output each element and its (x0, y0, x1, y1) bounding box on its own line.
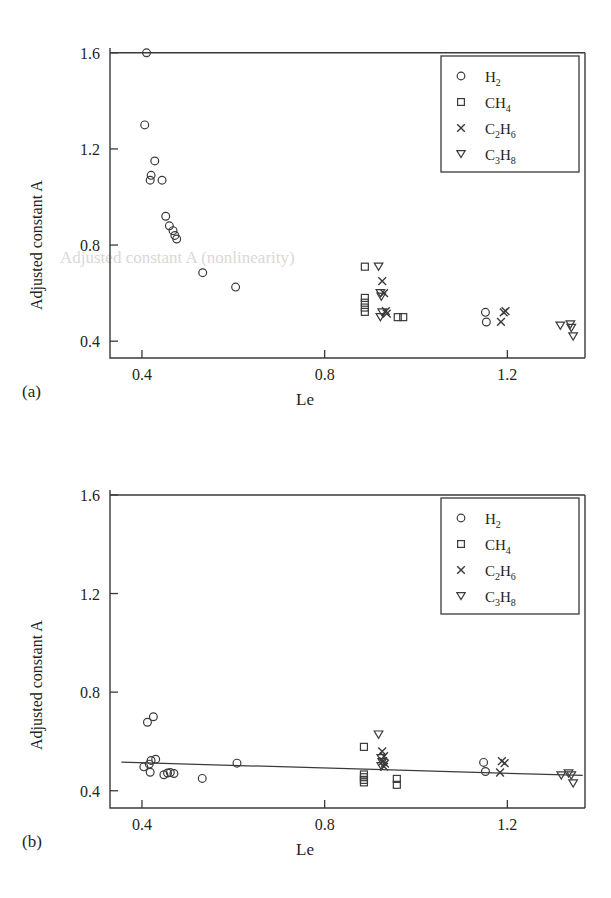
y-tick-label: 0.8 (80, 684, 100, 701)
square-marker (361, 304, 368, 311)
circle-marker (198, 775, 206, 783)
circle-marker (152, 755, 160, 763)
series-C2H6 (378, 277, 509, 326)
circle-marker (146, 768, 154, 776)
cross-marker (378, 277, 386, 285)
x-tick-label: 1.2 (497, 816, 517, 833)
square-marker (361, 263, 368, 270)
y-tick-label: 0.8 (80, 237, 100, 254)
x-tick-label: 0.4 (132, 816, 152, 833)
triangle-marker (569, 333, 578, 340)
cross-marker (501, 759, 509, 767)
square-marker (361, 299, 368, 306)
y-tick-label: 1.6 (80, 487, 100, 504)
cross-marker (497, 318, 505, 326)
chart-panel-b: Adjusted constant A Le (b) 0.40.81.21.60… (0, 430, 611, 898)
circle-marker (482, 318, 490, 326)
series-H2 (140, 713, 489, 782)
square-marker (361, 294, 368, 301)
series-H2 (141, 49, 490, 326)
triangle-marker (569, 780, 578, 787)
legend: H2CH4C2H6C3H8 (441, 56, 579, 172)
circle-marker (158, 176, 166, 184)
circle-marker (199, 269, 207, 277)
y-tick-label: 0.4 (80, 333, 100, 350)
triangle-marker (374, 731, 383, 738)
series-C3H8 (374, 263, 577, 340)
y-tick-label: 0.4 (80, 783, 100, 800)
x-tick-label: 0.4 (132, 366, 152, 383)
x-tick-label: 1.2 (497, 366, 517, 383)
circle-marker (149, 713, 157, 721)
triangle-marker (556, 322, 565, 329)
triangle-marker (557, 772, 566, 779)
scatter-svg-a: 0.40.81.21.60.40.81.2H2CH4C2H6C3H8 (0, 0, 611, 400)
legend: H2CH4C2H6C3H8 (441, 498, 579, 614)
circle-marker (232, 283, 240, 291)
chart-panel-a: Adjusted constant A (nonlinearity) Adjus… (0, 0, 611, 430)
square-marker (360, 774, 367, 781)
y-tick-label: 1.2 (80, 586, 100, 603)
y-tick-label: 1.2 (80, 141, 100, 158)
scatter-svg-b: 0.40.81.21.60.40.81.2H2CH4C2H6C3H8 (0, 430, 611, 850)
circle-marker (151, 157, 159, 165)
circle-marker (141, 121, 149, 129)
circle-marker (482, 308, 490, 316)
circle-marker (162, 212, 170, 220)
y-tick-label: 1.6 (80, 45, 100, 62)
x-tick-label: 0.8 (315, 366, 335, 383)
circle-marker (480, 759, 488, 767)
series-C3H8 (374, 731, 577, 787)
square-marker (361, 308, 368, 315)
plot-area-a: 0.40.81.21.60.40.81.2H2CH4C2H6C3H8 (0, 0, 611, 400)
trend-line (121, 762, 582, 775)
plot-area-b: 0.40.81.21.60.40.81.2H2CH4C2H6C3H8 (0, 430, 611, 850)
circle-marker (146, 176, 154, 184)
x-tick-label: 0.8 (315, 816, 335, 833)
circle-marker (482, 768, 490, 776)
square-marker (360, 779, 367, 786)
square-marker (360, 743, 367, 750)
triangle-marker (374, 263, 383, 270)
